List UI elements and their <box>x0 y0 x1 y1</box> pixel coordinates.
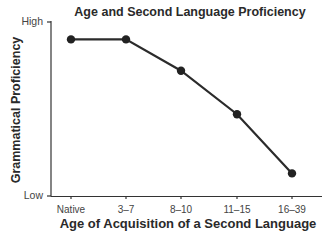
data-series <box>67 35 296 177</box>
data-point-marker <box>288 169 296 177</box>
series-line <box>71 39 292 173</box>
data-point-marker <box>67 35 75 43</box>
data-point-marker <box>233 110 241 118</box>
data-point-marker <box>122 35 130 43</box>
plot-area <box>0 0 325 238</box>
axes <box>47 21 322 199</box>
data-point-marker <box>177 67 185 75</box>
